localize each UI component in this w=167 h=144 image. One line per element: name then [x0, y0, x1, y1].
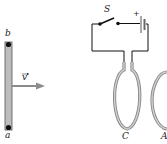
label-switch-s: S — [104, 5, 110, 14]
velocity-arrow-icon — [12, 73, 45, 90]
loop-a — [152, 72, 167, 129]
conducting-rod — [5, 42, 12, 130]
label-b: b — [5, 29, 11, 38]
label-loop-c: C — [122, 132, 129, 141]
label-v: v — [22, 73, 27, 82]
label-battery-plus: + — [133, 10, 140, 18]
physics-diagram: b a v S + C A — [0, 0, 167, 144]
endpoint-b-dot — [6, 42, 11, 47]
switch-icon — [98, 22, 120, 26]
battery-icon — [141, 16, 145, 33]
loop-c — [115, 62, 140, 129]
label-loop-a: A — [161, 132, 167, 141]
label-a: a — [5, 131, 10, 140]
